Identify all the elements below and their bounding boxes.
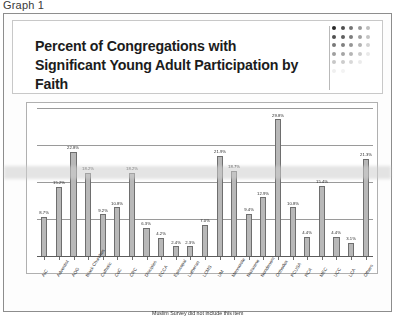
bar (231, 171, 237, 257)
logo-dot (349, 52, 353, 56)
bar (129, 173, 135, 257)
bar-group: 10.8% (114, 109, 120, 257)
logo-dot (341, 52, 345, 56)
logo-dot (366, 52, 370, 56)
logo-dot (358, 26, 362, 30)
bar-value-label: 2.4% (171, 241, 181, 245)
figure-frame: Percent of Congregations with Significan… (3, 13, 392, 312)
bar-group: 10.8% (290, 109, 296, 257)
bar-value-label: 18.2% (82, 168, 94, 172)
bar-value-label: 10.8% (287, 202, 299, 206)
bar-group: 7.0% (202, 109, 208, 257)
logo-dot (341, 60, 345, 64)
bar-value-label: 7.0% (200, 220, 210, 224)
bar-value-label: 9.4% (244, 208, 254, 212)
logo-dot (332, 43, 336, 47)
logo-divider (329, 26, 330, 90)
x-axis-tick (132, 257, 133, 260)
bar (70, 152, 76, 257)
bar-group: 8.7% (41, 109, 47, 257)
x-axis-tick (249, 257, 250, 260)
x-axis-tick (263, 257, 264, 260)
logo-dot (358, 60, 362, 64)
bar (290, 207, 296, 257)
x-axis-tick (176, 257, 177, 260)
logo-dot (341, 69, 345, 73)
x-axis-tick (351, 257, 352, 260)
bar-value-label: 22.8% (68, 147, 80, 151)
bar (319, 186, 325, 257)
bar (41, 217, 47, 257)
logo-dot (341, 35, 345, 39)
logo-dot (358, 35, 362, 39)
bar-value-label: 6.3% (142, 223, 152, 227)
bar (333, 237, 339, 257)
bar (85, 173, 91, 257)
bar-group: 18.2% (129, 109, 135, 257)
bar-value-label: 29.8% (272, 114, 284, 118)
x-axis-tick (88, 257, 89, 260)
logo-dot (358, 52, 362, 56)
bar-group: 15.2% (56, 109, 62, 257)
x-axis-tick (220, 257, 221, 260)
x-axis-tick (307, 257, 308, 260)
bar-group: 6.3% (143, 109, 149, 257)
bar-group: 15.4% (319, 109, 325, 257)
bar-value-label: 18.7% (228, 165, 240, 169)
gradient-dot-grid-logo (332, 26, 378, 90)
logo-dot (341, 43, 345, 47)
x-axis-tick (44, 257, 45, 260)
logo-dot (332, 60, 336, 64)
bar (56, 187, 62, 257)
x-axis-tick (278, 257, 279, 260)
logo-dot (366, 43, 370, 47)
bar (348, 243, 354, 257)
x-axis-tick (366, 257, 367, 260)
bar-value-label: 4.2% (156, 233, 166, 237)
x-axis-tick (59, 257, 60, 260)
bar-value-label: 9.2% (98, 209, 108, 213)
plot-frame: 8.7%15.2%22.8%18.2%9.2%10.8%18.2%6.3%4.2… (26, 102, 378, 274)
logo-dot (349, 35, 353, 39)
chart-title: Percent of Congregations with Significan… (35, 37, 310, 94)
bar-value-label: 15.2% (53, 182, 65, 186)
bar-group: 4.4% (333, 109, 339, 257)
bar-value-label: 4.4% (332, 232, 342, 236)
title-block: Percent of Congregations with Significan… (12, 20, 383, 94)
bar-value-label: 10.8% (111, 202, 123, 206)
x-axis-tick (190, 257, 191, 260)
bar (143, 228, 149, 257)
bar-value-label: 3.1% (346, 238, 356, 242)
x-axis-tick (117, 257, 118, 260)
bar-group: 3.1% (348, 109, 354, 257)
bar-group: 4.2% (158, 109, 164, 257)
x-axis-tick (147, 257, 148, 260)
logo-dot (366, 35, 370, 39)
logo-dot (332, 26, 336, 30)
logo-dot (332, 69, 336, 73)
bar-value-label: 18.2% (126, 168, 138, 172)
bar-group: 2.4% (173, 109, 179, 257)
bar-group: 21.9% (217, 109, 223, 257)
bar-value-label: 2.3% (186, 241, 196, 245)
bar-group: 29.8% (275, 109, 281, 257)
x-axis-tick (161, 257, 162, 260)
bar-group: 2.3% (187, 109, 193, 257)
bar (304, 237, 310, 257)
logo-dot (349, 26, 353, 30)
logo-dot (341, 26, 345, 30)
logo-dot (332, 52, 336, 56)
bar-group: 22.8% (70, 109, 76, 257)
logo-dot (358, 43, 362, 47)
bar (202, 225, 208, 257)
x-axis-tick (322, 257, 323, 260)
bar-value-label: 12.9% (257, 192, 269, 196)
logo-dot (349, 60, 353, 64)
x-axis-tick (205, 257, 206, 260)
bar-group: 4.4% (304, 109, 310, 257)
bar (217, 156, 223, 257)
bar (246, 214, 252, 257)
plot-area: 8.7%15.2%22.8%18.2%9.2%10.8%18.2%6.3%4.2… (37, 109, 373, 257)
bar-value-label: 15.4% (316, 181, 328, 185)
x-axis-label: UM (218, 270, 226, 278)
